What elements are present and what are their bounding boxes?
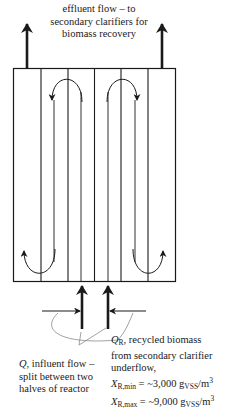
- influent-label-line-1: , influent flow –: [27, 358, 95, 369]
- effluent-label-line-1: effluent flow – to: [45, 3, 153, 16]
- effluent-label-line-2: secondary clarifiers for: [45, 16, 153, 29]
- recycle-label-line-1: , recycled biomass: [124, 334, 202, 345]
- effluent-label-line-3: biomass recovery: [45, 28, 153, 41]
- u-turn-arrow-top-right: [107, 79, 137, 102]
- influent-label-line-2: split between two: [19, 371, 94, 384]
- u-turn-arrow-top-left: [52, 79, 82, 102]
- recycle-label-line-3: underflow,: [111, 362, 214, 375]
- xr-max-value: XR,max = ~9,000 gVSS/m3: [111, 393, 214, 410]
- recycle-flow-label: QR, recycled biomass from secondary clar…: [111, 334, 214, 410]
- xr-min-value: XR,min = ~3,000 gVSS/m3: [111, 375, 214, 394]
- u-turn-arrow-bottom-left: [24, 249, 55, 273]
- influent-flow-label: Q, influent flow – split between two hal…: [19, 358, 94, 396]
- effluent-flow-label: effluent flow – to secondary clarifiers …: [45, 3, 153, 41]
- recycle-symbol: Q: [111, 334, 119, 345]
- influent-label-line-3: halves of reactor: [19, 383, 94, 396]
- influent-symbol: Q: [19, 358, 27, 369]
- recycle-label-line-2: from secondary clarifier: [111, 350, 214, 363]
